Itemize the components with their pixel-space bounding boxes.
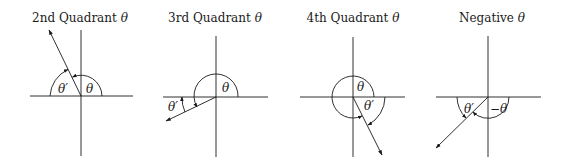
reference-angle-label: θ′ (364, 99, 374, 113)
negative-theta-label: −θ (490, 102, 508, 116)
diagram-3rd-quadrant (163, 36, 268, 157)
reference-angle-diagrams: θ′ θ θ′ θ θ θ′ θ′ −θ (0, 0, 561, 166)
theta-label: θ (222, 81, 230, 95)
theta-label: θ (357, 80, 365, 94)
reference-angle-arc (182, 97, 185, 112)
reference-angle-label: θ′ (464, 102, 474, 116)
terminal-ray (436, 97, 488, 148)
diagram-negative-theta (436, 36, 541, 157)
reference-angle-label: θ′ (168, 100, 178, 114)
reference-angle-label: θ′ (58, 82, 68, 96)
diagram-4th-quadrant (300, 37, 405, 157)
diagram-2nd-quadrant (30, 30, 133, 156)
theta-label: θ (86, 82, 94, 96)
